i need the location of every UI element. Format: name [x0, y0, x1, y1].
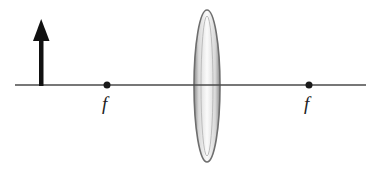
focal-label-left: f — [102, 94, 107, 113]
focal-point-left — [104, 82, 111, 89]
focal-label-right: f — [304, 94, 309, 113]
converging-lens — [194, 10, 220, 162]
object-arrow-icon — [33, 19, 50, 86]
focal-point-right — [306, 82, 313, 89]
optics-diagram — [0, 0, 373, 175]
